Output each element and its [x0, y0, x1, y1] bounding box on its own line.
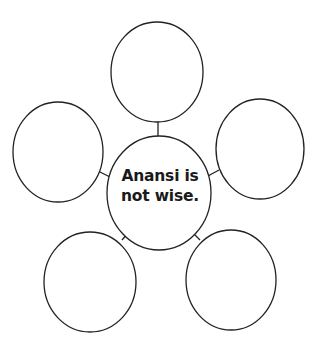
center-label-line2: not wise. [108, 186, 212, 206]
node-bottom-left[interactable] [44, 232, 136, 332]
center-label-line1: Anansi is [108, 166, 212, 186]
node-top[interactable] [111, 22, 203, 122]
node-bottom-right[interactable] [186, 230, 276, 330]
center-label: Anansi is not wise. [108, 166, 212, 206]
node-right[interactable] [216, 99, 304, 199]
node-left[interactable] [13, 102, 103, 202]
